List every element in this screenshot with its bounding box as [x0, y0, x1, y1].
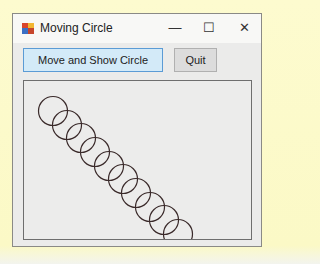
- maximize-button[interactable]: ☐: [199, 19, 219, 37]
- title-bar[interactable]: Moving Circle — ☐ ✕: [13, 14, 261, 43]
- quit-button[interactable]: Quit: [174, 48, 217, 72]
- close-button[interactable]: ✕: [234, 19, 254, 37]
- drawing-panel: [23, 80, 252, 240]
- app-icon: [22, 23, 34, 34]
- minimize-button[interactable]: —: [165, 19, 185, 37]
- window-title: Moving Circle: [40, 21, 113, 35]
- move-and-show-circle-button[interactable]: Move and Show Circle: [23, 48, 163, 72]
- circles-drawing: [24, 81, 252, 240]
- app-window: Moving Circle — ☐ ✕ Move and Show Circle…: [12, 13, 262, 247]
